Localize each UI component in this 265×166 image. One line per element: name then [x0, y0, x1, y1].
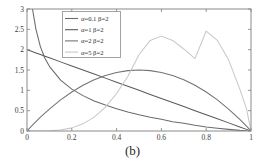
x-tick-label: 0 — [25, 133, 29, 142]
legend-label-1: α=1 β=2 — [81, 26, 104, 33]
beta-pdf-figure: 00.20.40.60.81 00.511.522.53 α=0.1 β=2α=… — [0, 0, 265, 166]
x-tick-label: 0.4 — [112, 133, 122, 142]
legend-label-3: α=5 β=2 — [81, 49, 104, 56]
figure-caption: (b) — [0, 143, 265, 159]
legend-label-0: α=0.1 β=2 — [81, 15, 108, 22]
chart-legend: α=0.1 β=2α=1 β=2α=2 β=2α=5 β=2 — [63, 12, 121, 58]
y-tick-label: 1 — [20, 86, 24, 95]
legend-label-2: α=2 β=2 — [81, 37, 104, 44]
y-tick-label: 2.5 — [15, 25, 25, 34]
x-tick-label: 0.8 — [202, 133, 212, 142]
y-tick-label: 0 — [20, 127, 24, 136]
x-tick-label: 0.2 — [67, 133, 77, 142]
x-tick-label: 1 — [249, 133, 253, 142]
y-tick-label: 2 — [20, 45, 24, 54]
y-tick-label: 1.5 — [15, 66, 25, 75]
y-tick-label: 3 — [20, 5, 24, 14]
y-tick-label: 0.5 — [15, 106, 25, 115]
beta-pdf-chart: 00.20.40.60.81 00.511.522.53 α=0.1 β=2α=… — [0, 0, 265, 166]
x-tick-label: 0.6 — [157, 133, 167, 142]
